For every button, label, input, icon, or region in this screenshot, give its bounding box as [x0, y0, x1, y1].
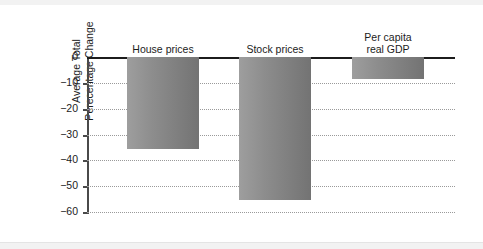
bar-1	[127, 57, 199, 149]
bar-2	[239, 57, 311, 200]
gridline	[87, 212, 455, 213]
chart-figure: Average Total Perecentage Change 0−10−20…	[0, 0, 483, 249]
page-band-bottom	[0, 243, 483, 249]
plot-area	[87, 57, 455, 212]
y-axis-tick-label: −10	[34, 77, 78, 88]
y-axis-tick-label: −20	[34, 103, 78, 114]
page-divider-line	[0, 242, 483, 243]
y-axis-tick-label: −30	[34, 129, 78, 140]
bar-label-1: House prices	[103, 43, 223, 55]
bar-label-2: Stock prices	[215, 43, 335, 55]
y-axis-tick-label: −50	[34, 180, 78, 191]
bar-label-3: Per capita real GDP	[328, 31, 448, 56]
y-axis-tick-label: −40	[34, 154, 78, 165]
y-axis-tick-label: 0	[34, 51, 78, 62]
bar-3	[352, 57, 424, 79]
y-axis-tick-label: −60	[34, 206, 78, 217]
